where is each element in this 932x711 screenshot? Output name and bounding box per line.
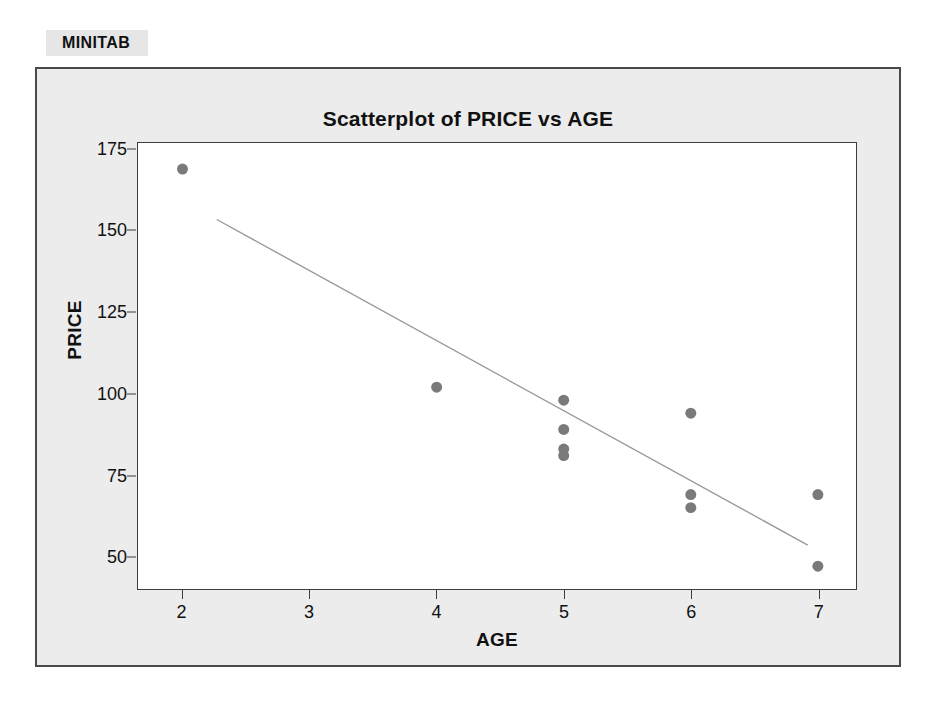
x-tick-mark — [182, 590, 183, 599]
y-tick-mark — [127, 475, 136, 476]
chart-title: Scatterplot of PRICE vs AGE — [37, 107, 899, 131]
x-tick-label: 4 — [431, 602, 441, 623]
y-tick-label: 75 — [107, 465, 127, 486]
x-tick-label: 6 — [686, 602, 696, 623]
y-tick-mark — [127, 312, 136, 313]
x-tick-mark — [691, 590, 692, 599]
minitab-label-tab: MINITAB — [46, 30, 148, 56]
page-margin-artifact — [0, 10, 14, 130]
x-tick-mark — [309, 590, 310, 599]
y-tick-mark — [127, 557, 136, 558]
regression-line-segment — [217, 220, 808, 546]
y-tick-mark — [127, 230, 136, 231]
x-tick-label: 5 — [559, 602, 569, 623]
data-point — [812, 561, 823, 572]
data-point — [558, 424, 569, 435]
figure-panel: Scatterplot of PRICE vs AGE 507510012515… — [35, 67, 901, 667]
data-points — [177, 164, 823, 572]
y-tick-mark — [127, 393, 136, 394]
x-tick-label: 3 — [304, 602, 314, 623]
x-tick-mark — [436, 590, 437, 599]
data-point — [177, 164, 188, 175]
data-point — [685, 489, 696, 500]
y-tick-label: 125 — [97, 302, 127, 323]
y-tick-label: 50 — [107, 547, 127, 568]
data-point — [558, 395, 569, 406]
x-axis-title: AGE — [137, 629, 857, 651]
y-tick-mark — [127, 148, 136, 149]
data-point — [431, 382, 442, 393]
x-tick-mark — [564, 590, 565, 599]
minitab-label-text: MINITAB — [62, 34, 130, 52]
plot-area — [137, 142, 857, 590]
regression-line — [217, 220, 808, 546]
x-tick-label: 2 — [177, 602, 187, 623]
data-point — [685, 408, 696, 419]
data-point — [558, 450, 569, 461]
data-point — [812, 489, 823, 500]
y-tick-label: 100 — [97, 383, 127, 404]
y-tick-label: 150 — [97, 220, 127, 241]
y-tick-label: 175 — [97, 138, 127, 159]
data-point — [685, 502, 696, 513]
x-axis-ticks: 234567 — [137, 590, 857, 630]
plot-svg — [138, 143, 856, 589]
scatterplot-chart: Scatterplot of PRICE vs AGE 507510012515… — [37, 69, 899, 665]
x-tick-mark — [819, 590, 820, 599]
y-axis-title: PRICE — [64, 270, 86, 390]
x-tick-label: 7 — [814, 602, 824, 623]
